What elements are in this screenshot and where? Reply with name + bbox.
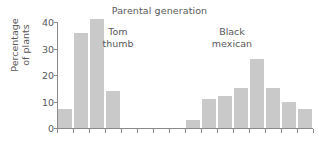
x-tick-mark [73, 129, 74, 133]
x-tick-mark [297, 129, 298, 133]
bar [218, 96, 231, 128]
y-axis-label: Percentage of plants [9, 0, 31, 90]
bar [282, 102, 295, 129]
bar [234, 88, 247, 128]
y-tick-label: 10 [42, 96, 54, 107]
y-tick-mark [54, 49, 57, 50]
x-tick-mark [281, 129, 282, 133]
y-tick-label: 30 [42, 43, 54, 54]
y-tick-mark [54, 75, 57, 76]
chart-figure: Parental generation Percentage of plants… [0, 0, 319, 150]
group-label-black-mexican-line2: mexican [212, 38, 252, 49]
y-axis-label-line2: of plants [20, 0, 31, 90]
x-tick-mark [233, 129, 234, 133]
group-label-tom-thumb-line1: Tom [108, 26, 127, 37]
group-label-black-mexican: Black mexican [196, 26, 268, 49]
x-tick-mark [313, 129, 314, 133]
bar [106, 91, 119, 128]
x-tick-mark [201, 129, 202, 133]
group-label-black-mexican-line1: Black [219, 26, 245, 37]
y-tick-label: 40 [42, 17, 54, 28]
x-tick-mark [217, 129, 218, 133]
y-tick-mark [54, 102, 57, 103]
x-tick-mark [105, 129, 106, 133]
group-label-tom-thumb: Tom thumb [92, 26, 144, 49]
chart-title: Parental generation [0, 5, 319, 16]
y-tick-label: 20 [42, 70, 54, 81]
x-tick-mark [121, 129, 122, 133]
x-tick-mark [137, 129, 138, 133]
y-tick-label: 0 [48, 123, 54, 134]
bar [250, 59, 263, 128]
x-tick-mark [249, 129, 250, 133]
x-tick-mark [153, 129, 154, 133]
y-axis-label-line1: Percentage [9, 18, 20, 71]
bar [74, 33, 87, 128]
x-tick-mark [265, 129, 266, 133]
y-tick-mark [54, 22, 57, 23]
x-tick-mark [169, 129, 170, 133]
x-tick-mark [89, 129, 90, 133]
bar [186, 120, 199, 128]
group-label-tom-thumb-line2: thumb [102, 38, 133, 49]
bar [266, 88, 279, 128]
bar [298, 109, 311, 128]
bar [58, 109, 71, 128]
x-tick-mark [57, 129, 58, 133]
x-tick-mark [185, 129, 186, 133]
bar [202, 99, 215, 128]
